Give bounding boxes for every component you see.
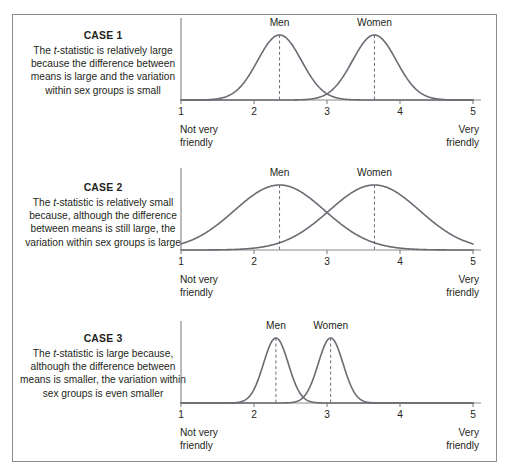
- plot-area-2: Men Women: [173, 165, 498, 265]
- case-body-2: The t-statistic is relatively small beca…: [19, 196, 187, 249]
- case-row-3: CASE 3 The t-statistic is large because,…: [13, 318, 498, 467]
- x-tick-label: 5: [470, 256, 476, 268]
- curve-label-men-2: Men: [270, 167, 290, 179]
- chart-panel-1: Men Women 12345 Not veryfriendly Veryfri…: [173, 15, 498, 164]
- axis-anchor-low-3: Not veryfriendly: [180, 427, 218, 452]
- plot-area-3: Men Women: [173, 318, 498, 418]
- case-body-2-pre: The: [33, 197, 53, 208]
- curve-label-men-1: Men: [270, 17, 290, 29]
- x-tick-label: 1: [178, 409, 184, 421]
- x-tick-label: 2: [251, 256, 257, 268]
- case-row-1: CASE 1 The t-statistic is relatively lar…: [13, 15, 498, 164]
- x-tick-label: 1: [178, 256, 184, 268]
- case-body-3: The t-statistic is large because, althou…: [19, 347, 187, 400]
- x-tick-label: 5: [470, 409, 476, 421]
- case-title-3: CASE 3: [19, 332, 187, 346]
- axis-anchor-low-1: Not veryfriendly: [180, 124, 218, 149]
- case-description-2: CASE 2 The t-statistic is relatively sma…: [19, 181, 187, 249]
- distribution-plot-3: [173, 318, 498, 418]
- case-body-1-pre: The: [33, 45, 53, 56]
- x-tick-label: 3: [324, 256, 330, 268]
- case-title-2: CASE 2: [19, 181, 187, 195]
- distribution-plot-1: [173, 15, 498, 115]
- curve-label-women-2: Women: [357, 167, 392, 179]
- x-tick-label: 5: [470, 106, 476, 118]
- figure-frame: CASE 1 The t-statistic is relatively lar…: [12, 14, 497, 462]
- x-tick-label: 4: [397, 409, 403, 421]
- axis-anchor-high-2: Veryfriendly: [446, 274, 479, 299]
- axis-anchor-low-2: Not veryfriendly: [180, 274, 218, 299]
- x-tick-label: 3: [324, 106, 330, 118]
- chart-panel-2: Men Women 12345 Not veryfriendly Veryfri…: [173, 165, 498, 314]
- case-body-1: The t-statistic is relatively large beca…: [19, 44, 187, 97]
- case-row-2: CASE 2 The t-statistic is relatively sma…: [13, 165, 498, 314]
- curve-label-men-3: Men: [266, 320, 286, 332]
- plot-area-1: Men Women: [173, 15, 498, 115]
- case-title-1: CASE 1: [19, 29, 187, 43]
- curve-label-women-3: Women: [313, 320, 348, 332]
- case-description-3: CASE 3 The t-statistic is large because,…: [19, 332, 187, 400]
- case-body-3-pre: The: [33, 348, 53, 359]
- axis-anchor-high-1: Veryfriendly: [446, 124, 479, 149]
- case-description-1: CASE 1 The t-statistic is relatively lar…: [19, 29, 187, 97]
- x-tick-label: 3: [324, 409, 330, 421]
- x-tick-label: 4: [397, 256, 403, 268]
- x-tick-label: 1: [178, 106, 184, 118]
- axis-anchor-high-3: Veryfriendly: [446, 427, 479, 452]
- x-tick-label: 2: [251, 409, 257, 421]
- distribution-plot-2: [173, 165, 498, 265]
- curve-label-women-1: Women: [357, 17, 392, 29]
- x-tick-label: 4: [397, 106, 403, 118]
- chart-panel-3: Men Women 12345 Not veryfriendly Veryfri…: [173, 318, 498, 467]
- x-tick-label: 2: [251, 106, 257, 118]
